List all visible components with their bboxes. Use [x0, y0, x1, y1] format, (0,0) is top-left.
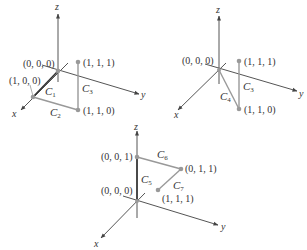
- curve-label-c5: C5: [141, 173, 152, 187]
- curve-label-c3: C3: [243, 80, 254, 94]
- curve-label-c7: C7: [173, 179, 184, 193]
- point-label: (1, 1, 1): [83, 57, 115, 69]
- x-axis-label: x: [11, 108, 17, 119]
- point-label: (0, 1, 1): [185, 163, 217, 175]
- point-origin: [135, 199, 139, 203]
- panel-1: z y x (0, 0, 0) (1, 0, 0) (1, 1, 1) (1, …: [9, 1, 146, 120]
- point-110: [237, 107, 242, 112]
- x-axis-label: x: [173, 109, 179, 120]
- point-110: [76, 108, 81, 113]
- point-label: (0, 0, 0): [182, 55, 214, 67]
- y-axis-label: y: [140, 89, 146, 100]
- path-diagram: z y x (0, 0, 0) (1, 0, 0) (1, 1, 1) (1, …: [0, 0, 307, 250]
- panel-3: z y x (0, 0, 1) (0, 1, 1) (0, 0, 0) (1, …: [93, 121, 226, 249]
- point-111: [237, 59, 242, 64]
- point-001: [135, 155, 140, 160]
- y-axis-label: y: [298, 88, 304, 99]
- point-label: (1, 1, 0): [83, 105, 115, 117]
- point-origin: [217, 68, 221, 72]
- curve-label-c2: C2: [50, 106, 61, 120]
- z-axis-label: z: [54, 1, 59, 12]
- curve-label-c1: C1: [45, 85, 56, 99]
- point-011: [179, 167, 184, 172]
- point-111: [76, 60, 81, 65]
- leader-line: [30, 85, 33, 96]
- point-label: (1, 0, 0): [9, 75, 41, 87]
- y-axis-label: y: [220, 221, 226, 232]
- point-label: (1, 1, 1): [244, 56, 276, 68]
- point-label: (1, 1, 0): [244, 104, 276, 116]
- x-axis-label: x: [93, 238, 99, 249]
- point-111: [156, 188, 161, 193]
- point-origin: [56, 69, 61, 74]
- curve-label-c6: C6: [157, 148, 168, 162]
- point-100: [31, 95, 36, 100]
- z-axis-label: z: [133, 121, 138, 132]
- point-label: (0, 0, 0): [101, 185, 133, 197]
- point-label: (0, 0, 0): [23, 58, 55, 70]
- panel-2: z y x (0, 0, 0) (1, 1, 1) (1, 1, 0) C4 C…: [173, 4, 304, 120]
- z-axis-label: z: [215, 4, 220, 15]
- point-label: (0, 0, 1): [101, 151, 133, 163]
- point-label: (1, 1, 1): [162, 193, 194, 205]
- curve-label-c3: C3: [82, 82, 93, 96]
